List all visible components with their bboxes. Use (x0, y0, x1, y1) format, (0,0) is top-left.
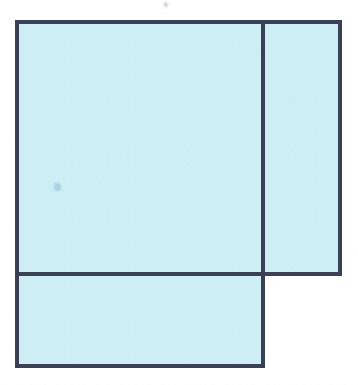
region-lower-left-rectangle (17, 274, 263, 366)
figure-canvas (0, 0, 358, 385)
region-upper-left-square (17, 22, 263, 274)
geometric-figure-diagram (0, 0, 358, 385)
region-right-tall-rectangle (263, 22, 340, 274)
